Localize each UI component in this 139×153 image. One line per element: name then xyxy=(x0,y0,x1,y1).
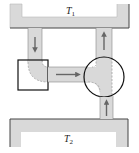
elbow-junction xyxy=(28,60,48,82)
tank-t1-label: T1 xyxy=(66,5,76,18)
tank-t2-label: T2 xyxy=(64,133,74,146)
tank-t1: T1 xyxy=(10,4,129,28)
tank-t2: T2 xyxy=(10,119,128,147)
right-upper-pipe xyxy=(96,28,112,60)
left-down-pipe xyxy=(28,28,42,62)
right-lower-pipe xyxy=(100,96,113,119)
flow-diagram: T1 T2 xyxy=(0,0,139,153)
